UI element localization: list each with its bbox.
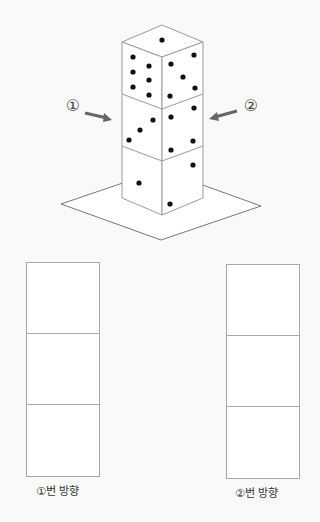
answer-grid-1-caption: ①번 방향 — [36, 482, 79, 498]
arrow-2 — [209, 111, 237, 121]
grid-cell[interactable] — [27, 334, 99, 405]
arrow-1-label: ① — [66, 96, 80, 115]
cube-tower — [122, 25, 203, 215]
answer-grid-1 — [26, 262, 100, 477]
grid-cell[interactable] — [227, 336, 299, 407]
grid-cell[interactable] — [27, 263, 99, 334]
grid-cell[interactable] — [227, 407, 299, 478]
cube-tower-diagram: ① ② — [0, 0, 320, 260]
answer-grid-2 — [226, 264, 300, 479]
arrow-1 — [85, 113, 112, 122]
grid-cell[interactable] — [227, 265, 299, 336]
arrow-2-label: ② — [244, 96, 258, 115]
grid-cell[interactable] — [27, 405, 99, 476]
answer-grid-2-caption: ②번 방향 — [235, 484, 278, 500]
